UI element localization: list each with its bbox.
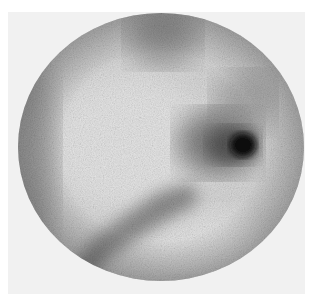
scintigraphy-field <box>18 13 304 281</box>
scan-image <box>18 13 304 281</box>
